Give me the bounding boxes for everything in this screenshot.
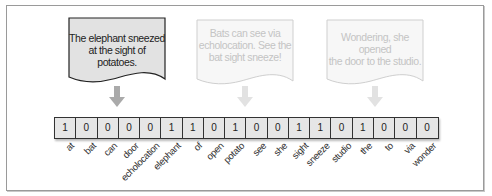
vector-cell: 1	[310, 118, 331, 138]
document-card-2: Bats can see via echolocation. See the b…	[196, 19, 294, 83]
document-line: The elephant sneezed	[68, 32, 166, 44]
down-arrow-icon	[237, 86, 253, 108]
vector-cell: 0	[140, 118, 161, 138]
down-arrow-icon	[367, 86, 383, 108]
vector-cell: 1	[183, 118, 204, 138]
vector-cell: 1	[289, 118, 310, 138]
vector-cell: 0	[204, 118, 225, 138]
vector-cell: 1	[161, 118, 182, 138]
bag-of-words-vector: 100001101001101000	[54, 117, 439, 139]
document-card-3: Wondering, she opened the door to the st…	[326, 19, 424, 83]
vector-cell: 0	[374, 118, 395, 138]
vector-cell: 0	[76, 118, 97, 138]
document-card-1: The elephant sneezed at the sight of pot…	[68, 17, 166, 83]
vector-cell: 0	[268, 118, 289, 138]
vector-cell: 1	[353, 118, 374, 138]
document-text-3: Wondering, she opened the door to the st…	[326, 31, 424, 67]
document-text-1: The elephant sneezed at the sight of pot…	[68, 32, 166, 68]
document-line: Wondering, she opened	[326, 31, 424, 55]
document-line: bat sight sneeze!	[196, 51, 294, 63]
vector-cell: 1	[55, 118, 76, 138]
document-line: the door to the studio.	[326, 55, 424, 67]
vector-cell: 0	[395, 118, 416, 138]
document-line: Bats can see via	[196, 27, 294, 39]
vector-cell: 1	[225, 118, 246, 138]
vector-cell: 0	[417, 118, 438, 138]
vector-cell: 0	[331, 118, 352, 138]
vector-cell: 0	[119, 118, 140, 138]
document-line: echolocation. See the	[196, 39, 294, 51]
document-text-2: Bats can see via echolocation. See the b…	[196, 27, 294, 63]
vector-cell: 0	[246, 118, 267, 138]
document-line: at the sight of potatoes.	[68, 44, 166, 68]
vector-cell: 0	[98, 118, 119, 138]
down-arrow-icon	[109, 86, 125, 108]
